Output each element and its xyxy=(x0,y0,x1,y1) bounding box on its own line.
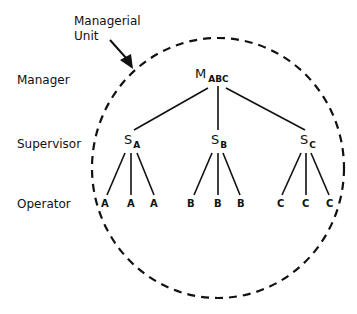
annotation-line1: Managerial xyxy=(74,14,141,28)
supervisor-node-c: SC xyxy=(300,132,316,150)
operator-c2: C xyxy=(302,198,309,209)
svg-text:SB: SB xyxy=(211,132,227,150)
operator-a3: A xyxy=(150,198,158,209)
managerial-unit-diagram: Managerial Unit Manager Supervisor Opera… xyxy=(0,0,357,314)
svg-text:SC: SC xyxy=(300,132,316,150)
operator-b3: B xyxy=(237,198,245,209)
operator-b1: B xyxy=(187,198,195,209)
annotation-line2: Unit xyxy=(74,29,99,43)
operator-b2: B xyxy=(214,198,222,209)
arrow-icon xyxy=(110,40,133,69)
supervisor-node-a: SA xyxy=(124,132,140,150)
operator-c1: C xyxy=(277,198,284,209)
svg-text:SA: SA xyxy=(124,132,140,150)
level-manager: Manager xyxy=(17,73,70,87)
operator-a2: A xyxy=(127,198,135,209)
svg-text:MABC: MABC xyxy=(195,66,229,84)
manager-node: MABC xyxy=(195,66,229,84)
operator-a1: A xyxy=(101,198,109,209)
level-supervisor: Supervisor xyxy=(17,137,81,151)
supervisor-node-b: SB xyxy=(211,132,227,150)
operator-c3: C xyxy=(326,198,333,209)
level-operator: Operator xyxy=(17,197,71,211)
